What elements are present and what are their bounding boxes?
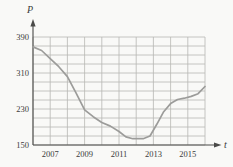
x-tick-label: 2015 bbox=[175, 150, 201, 159]
x-tick-label: 2013 bbox=[140, 150, 166, 159]
scanned-line-chart-figure: P t 39031023015020072009201120132015 bbox=[0, 0, 233, 167]
x-axis-arrowhead bbox=[214, 142, 222, 147]
x-axis-title: t bbox=[224, 140, 227, 150]
y-tick-label: 150 bbox=[9, 141, 29, 150]
y-axis-arrowhead bbox=[30, 19, 35, 27]
y-tick-label: 230 bbox=[9, 105, 29, 114]
chart-canvas bbox=[0, 0, 233, 167]
x-tick-label: 2011 bbox=[106, 150, 132, 159]
x-tick-label: 2007 bbox=[37, 150, 63, 159]
y-axis-title: P bbox=[27, 5, 33, 15]
y-tick-label: 310 bbox=[9, 69, 29, 78]
x-tick-label: 2009 bbox=[72, 150, 98, 159]
y-tick-label: 390 bbox=[9, 33, 29, 42]
